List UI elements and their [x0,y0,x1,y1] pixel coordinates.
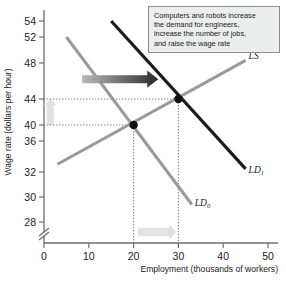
y-tick-label-40: 40 [24,119,36,131]
y-tick-label-52: 52 [24,31,36,43]
y-tick-label-54: 54 [24,15,36,27]
x-tick-label-20: 20 [128,250,140,262]
marker-new-equilibrium [174,95,182,103]
employment-increase-arrow [138,225,176,240]
callout-line-4: and raise the wage rate [154,39,274,48]
x-tick-label-30: 30 [173,250,185,262]
y-tick-label-44: 44 [24,93,36,105]
explanation-box: Computers and robots increasethe demand … [148,6,280,53]
y-tick-label-32: 32 [24,166,36,178]
curve-label-LD0: LD0 [194,198,211,209]
x-tick-label-50: 50 [262,250,274,262]
marker-initial-equilibrium [129,121,137,129]
callout-line-3: increase the number of jobs, [154,29,274,38]
x-tick-label-40: 40 [217,250,229,262]
y-tick-label-30: 30 [24,191,36,203]
chart-figure: 28303236404448525401020304050LSLD0LD1Emp… [0,0,286,282]
callout-line-2: the demand for engineers, [154,20,274,29]
callout-line-1: Computers and robots increase [154,11,274,20]
x-tick-label-0: 0 [41,250,47,262]
y-tick-label-48: 48 [24,57,36,69]
wage-increase-arrow [44,99,57,125]
y-tick-label-36: 36 [24,135,36,147]
y-tick-label-28: 28 [24,216,36,228]
y-axis-title: Wage rate (dollars per hour) [3,68,13,175]
curve-label-LS: LS [248,51,259,61]
curve-LD0 [66,37,191,205]
x-tick-label-10: 10 [83,250,95,262]
svg-text:Wage rate (dollars per hour): Wage rate (dollars per hour) [3,68,13,175]
curve-label-LD1: LD1 [248,165,264,176]
x-axis-title: Employment (thousands of workers) [140,264,278,274]
